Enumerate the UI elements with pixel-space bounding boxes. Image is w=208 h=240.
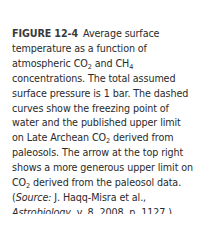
figure-caption: FIGURE 12-4Average surface temperature a… — [12, 27, 208, 214]
caption-text: atmospheric CO — [12, 58, 88, 69]
caption-line: (Source: J. Haqq-Misra et al., — [12, 191, 208, 206]
caption-text: derived from the paleosol data. — [30, 177, 181, 188]
journal-name: Astrobiology — [12, 207, 71, 214]
caption-text: CO — [12, 177, 26, 188]
caption-line: curves show the freezing point of — [12, 102, 208, 117]
caption-line: atmospheric CO2 and CH4 — [12, 57, 208, 72]
figure-label: FIGURE 12-4 — [12, 28, 78, 39]
caption-text: on Late Archean CO — [12, 132, 106, 143]
caption-line: temperature as a function of — [12, 42, 208, 57]
caption-text: , v. 8, 2008, p. 1127.) — [71, 207, 172, 214]
subscript: 4 — [129, 62, 133, 70]
caption-line: water and the published upper limit — [12, 116, 208, 131]
caption-line: CO2 derived from the paleosol data. — [12, 176, 208, 191]
caption-text: and CH — [92, 58, 129, 69]
caption-text: J. Haqq-Misra et al., — [51, 192, 146, 203]
caption-line: concentrations. The total assumed — [12, 72, 208, 87]
caption-line: shows a more generous upper limit on — [12, 161, 208, 176]
caption-line: surface pressure is 1 bar. The dashed — [12, 87, 208, 102]
source-label: Source: — [16, 192, 52, 203]
caption-line: Astrobiology, v. 8, 2008, p. 1127.) — [12, 206, 208, 214]
caption-line: paleosols. The arrow at the top right — [12, 146, 208, 161]
caption-text: Average surface — [83, 28, 159, 39]
caption-text: derived from — [110, 132, 173, 143]
caption-line: FIGURE 12-4Average surface — [12, 27, 208, 42]
caption-line: on Late Archean CO2 derived from — [12, 131, 208, 146]
